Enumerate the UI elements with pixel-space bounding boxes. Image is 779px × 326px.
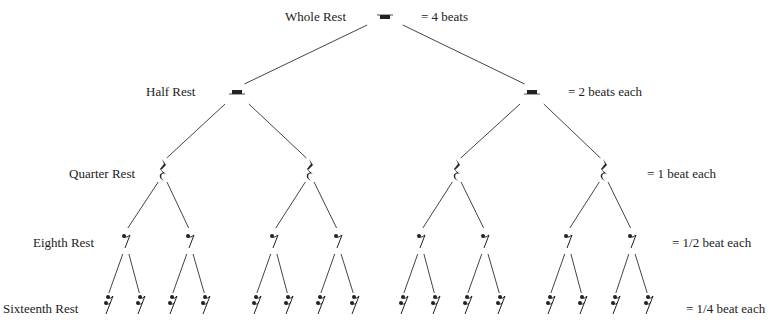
tree-branch-line [249,104,307,158]
tree-branch-line [128,182,158,228]
sixteenth-rest-icon [611,295,620,314]
eighth-rest-icon [564,234,572,248]
sixteenth-rest-icon [136,295,145,314]
tree-branch-line [109,254,123,293]
tree-branch-line [173,254,187,293]
eighth-rest-icon [122,234,130,248]
tree-branch-line [167,104,225,158]
tree-branch-line [277,254,287,293]
eighth-rest-icon [334,234,342,248]
tree-branch-line [635,254,647,293]
tree-branch-line [129,254,139,293]
tree-branch-line [608,182,631,228]
sixteenth-rest-icon [578,295,587,314]
sixteenth-rest-icon [252,295,261,314]
tree-branch-line [488,254,499,293]
eighth-rest-icon [417,234,425,248]
eighth-rest-icon [186,234,194,248]
tree-branch-line [403,25,525,84]
tree-branch-line [424,254,434,293]
sixteenth-rest-icon [546,295,555,314]
tree-branch-line [193,254,204,293]
tree-branch-line [571,254,581,293]
tree-branch-line [257,254,271,293]
tree-graphic [0,0,779,326]
tree-branch-line [314,182,337,228]
tree-branch-line [276,182,306,228]
sixteenth-rest-icon [644,295,653,314]
sixteenth-rest-icon [431,295,440,314]
whole-rest-icon [377,15,393,19]
tree-branch-line [341,254,353,293]
eighth-rest-icon [270,234,278,248]
sixteenth-rest-icon [316,295,325,314]
quarter-rest-icon [160,159,166,181]
sixteenth-rest-icon [168,295,177,314]
sixteenth-rest-icon [104,295,113,314]
quarter-rest-icon [601,159,607,181]
tree-branch-line [468,254,482,293]
tree-branch-line [551,254,565,293]
tree-branch-line [616,254,629,293]
tree-branch-line [404,254,418,293]
sixteenth-rest-icon [463,295,472,314]
tree-branch-line [570,182,600,228]
eighth-rest-icon [481,234,489,248]
tree-branch-line [244,25,367,84]
sixteenth-rest-icon [201,295,210,314]
tree-branch-line [461,182,484,228]
tree-branch-line [321,254,335,293]
tree-branch-line [423,182,453,228]
half-rest-icon [229,90,245,94]
sixteenth-rest-icon [496,295,505,314]
eighth-rest-icon [628,234,636,248]
tree-branch-line [544,104,601,158]
tree-branch-line [167,182,189,228]
quarter-rest-icon [307,159,313,181]
sixteenth-rest-icon [284,295,293,314]
half-rest-icon [524,90,540,94]
sixteenth-rest-icon [350,295,359,314]
quarter-rest-icon [454,159,460,181]
sixteenth-rest-icon [399,295,408,314]
tree-branch-line [461,104,520,158]
